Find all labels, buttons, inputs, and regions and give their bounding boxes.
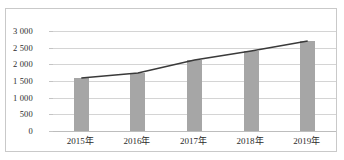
y-axis-tick-label: 1 000 (0, 94, 33, 103)
plot-area: 3 0002 5002 0001 5001 0005000 (53, 31, 336, 131)
y-axis-tickmark (49, 98, 53, 99)
x-axis-tick-label: 2015年 (53, 136, 107, 147)
gridline (53, 131, 336, 132)
y-axis-tickmark (49, 48, 53, 49)
chart-frame: 3 0002 5002 0001 5001 0005000 2015年2016年… (5, 8, 337, 152)
y-axis-tickmark (49, 31, 53, 32)
y-axis-tick-label: 2 500 (0, 44, 33, 53)
chart-figure: 3 0002 5002 0001 5001 0005000 2015年2016年… (0, 0, 344, 160)
y-axis-tick-label: 1 500 (0, 77, 33, 86)
x-axis-tick-label: 2016年 (110, 136, 164, 147)
y-axis-tickmark (49, 131, 53, 132)
gridline (53, 48, 336, 49)
y-axis-tick-label: 3 000 (0, 27, 33, 36)
bar (130, 73, 145, 131)
bar (187, 60, 202, 131)
y-axis-tick-label: 500 (0, 110, 33, 119)
gridline (53, 31, 336, 32)
y-axis-tickmark (49, 81, 53, 82)
x-axis-tick-label: 2019年 (280, 136, 334, 147)
y-axis-tick-label: 0 (0, 127, 33, 136)
y-axis-tickmark (49, 64, 53, 65)
x-axis-tick-label: 2018年 (223, 136, 277, 147)
bar (74, 78, 89, 131)
bar (300, 41, 315, 131)
y-axis-tick-label: 2 000 (0, 60, 33, 69)
x-axis-tick-label: 2017年 (167, 136, 221, 147)
y-axis-tickmark (49, 114, 53, 115)
bar (244, 51, 259, 131)
